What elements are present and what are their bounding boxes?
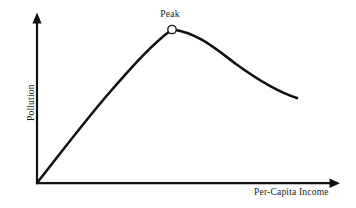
kuznets-curve-figure: Peak Per-Capita Income Pollution xyxy=(0,0,356,208)
y-axis-label: Pollution xyxy=(26,84,36,121)
peak-marker-circle xyxy=(168,25,176,33)
chart-canvas xyxy=(0,0,356,208)
x-axis-label: Per-Capita Income xyxy=(254,187,329,197)
peak-annotation-label: Peak xyxy=(0,9,348,19)
kuznets-curve-path xyxy=(37,30,297,184)
x-axis-arrowhead-icon xyxy=(330,178,341,188)
